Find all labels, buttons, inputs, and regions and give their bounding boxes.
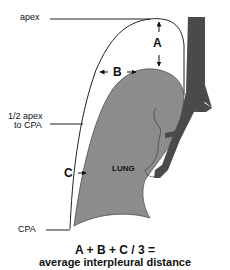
measure-c-label: C: [64, 167, 73, 179]
lung-label: LUNG: [112, 165, 135, 173]
interpleural-distance-diagram: apex 1/2 apex to CPA CPA LUNG A B C A + …: [0, 0, 230, 270]
half-apex-label-line2: to CPA: [14, 121, 42, 130]
measure-a-label: A: [153, 37, 162, 49]
measure-b-label: B: [113, 66, 122, 78]
formula-line2: average interpleural distance: [0, 257, 230, 268]
apex-label: apex: [20, 13, 40, 22]
cpa-label: CPA: [18, 225, 36, 234]
lung-shape: [74, 69, 184, 226]
formula-line1: A + B + C / 3 =: [0, 244, 230, 256]
